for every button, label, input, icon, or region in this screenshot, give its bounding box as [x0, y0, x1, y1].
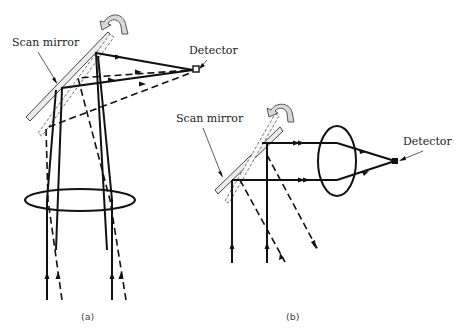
scan-mirror-label-a: Scan mirror: [12, 36, 80, 49]
scan-mirror-label-b: Scan mirror: [176, 112, 244, 125]
rotation-arrow-icon: [100, 15, 128, 34]
detector-b: [392, 158, 398, 164]
lens-b: [318, 126, 356, 196]
scan-mirror-b: [215, 114, 283, 203]
lens-a: [25, 189, 135, 211]
scan-mirror-diagram: Scan mirror Detector (a): [0, 0, 457, 335]
detector-label-a: Detector: [189, 44, 238, 57]
detector-label-b: Detector: [403, 135, 452, 148]
detector-a: [193, 66, 199, 72]
panel-a-caption: (a): [81, 311, 94, 322]
panel-a: Scan mirror Detector (a): [12, 15, 238, 322]
panel-b-caption: (b): [286, 311, 299, 322]
panel-b: Scan mirror Detector (b): [176, 104, 452, 322]
rotation-arrow-icon: [267, 104, 294, 122]
